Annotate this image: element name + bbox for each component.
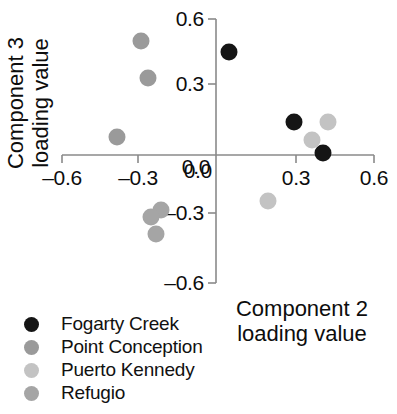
data-point — [109, 129, 126, 146]
y-axis-title: Component 3 loading value — [3, 3, 53, 203]
x-tick-label-pos03: 0.3 — [282, 166, 310, 190]
data-point — [314, 144, 331, 161]
x-axis-title-text: Component 2 loading value — [236, 296, 368, 346]
y-tick-label-pos03: 0.3 — [176, 72, 204, 96]
x-tick-label-neg03: –0.3 — [118, 166, 158, 190]
data-point — [260, 193, 277, 210]
legend-marker-icon — [24, 363, 39, 378]
legend-item[interactable]: Fogarty Creek — [24, 313, 203, 335]
legend-label: Puerto Kennedy — [61, 359, 194, 381]
legend-marker-icon — [24, 386, 39, 401]
legend-item[interactable]: Puerto Kennedy — [24, 359, 203, 381]
data-point — [221, 43, 238, 60]
scatter-plot-figure: –0.6 –0.3 0.0 0.3 0.6 0.6 0.3 0.0 –0.3 –… — [0, 0, 397, 414]
legend-marker-icon — [24, 340, 39, 355]
y-tick-label-neg06: –0.6 — [164, 271, 204, 295]
y-tick-label-pos06: 0.6 — [176, 7, 204, 31]
legend: Fogarty CreekPoint ConceptionPuerto Kenn… — [24, 313, 203, 404]
y-tick-label-zero: 0.0 — [184, 159, 212, 183]
data-point — [140, 70, 157, 87]
x-tick-label-pos06: 0.6 — [360, 166, 388, 190]
data-point — [319, 114, 336, 131]
y-tick-label-neg03: –0.3 — [164, 201, 204, 225]
legend-item[interactable]: Refugio — [24, 382, 203, 404]
legend-label: Refugio — [61, 382, 125, 404]
legend-label: Point Conception — [61, 336, 203, 358]
data-point — [143, 208, 160, 225]
plot-area: –0.6 –0.3 0.0 0.3 0.6 0.6 0.3 0.0 –0.3 –… — [0, 0, 397, 300]
legend-label: Fogarty Creek — [61, 313, 179, 335]
data-point — [148, 226, 165, 243]
legend-item[interactable]: Point Conception — [24, 336, 203, 358]
data-point — [132, 32, 149, 49]
data-point — [286, 114, 303, 131]
y-axis-title-text: Component 3 loading value — [3, 37, 53, 169]
x-axis-title: Component 2 loading value — [212, 296, 392, 346]
axes-svg — [0, 0, 397, 300]
data-point — [304, 131, 321, 148]
legend-marker-icon — [24, 317, 39, 332]
